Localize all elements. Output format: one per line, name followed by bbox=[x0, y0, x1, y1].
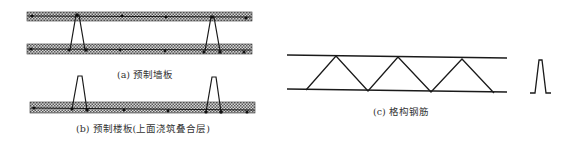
caption-c: (c) 格构钢筋 bbox=[373, 104, 429, 118]
caption-b: (b) 预制楼板(上面浇筑叠合层) bbox=[76, 121, 210, 135]
panel-c-lattice bbox=[287, 55, 551, 93]
truss-profile bbox=[530, 60, 551, 93]
panel-b-floor bbox=[30, 76, 255, 114]
diagonal-web bbox=[306, 56, 494, 93]
bottom-chord bbox=[287, 89, 507, 92]
caption-a: (a) 预制墙板 bbox=[117, 67, 173, 81]
panel-a-wall bbox=[27, 12, 252, 54]
